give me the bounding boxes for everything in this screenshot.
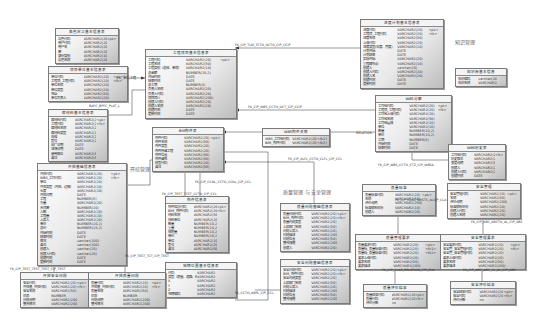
field-type: VARCHAR2(20) bbox=[478, 81, 496, 85]
entity-table[interactable]: WBS历史表工作包代码VARCHAR2(20)<fk>历史版本VARCHAR2(… bbox=[448, 144, 506, 180]
entity-title: 知识库基本信息 bbox=[456, 69, 506, 76]
entity-table[interactable]: 项目单位基本信息表单位代码VARCHAR2(20)<pk>工程项_工程代码VAR… bbox=[48, 66, 128, 102]
entity-table[interactable]: 质量问题基础信息表质量问题代码VARCHAR2(20)<pk>BIM_构件代码V… bbox=[280, 203, 350, 252]
entity-table[interactable]: 开挖基础信息表开挖代码VARCHAR2(20)<pk>WBS_工作代码VARCH… bbox=[37, 163, 127, 266]
entity-title: 质量管理要求 bbox=[356, 235, 440, 242]
field-type: VARCHAR2(20) bbox=[480, 213, 507, 217]
entity-table[interactable]: 质量管理要求质量要求代码VARCHAR2(20)<pk>质量标_质量标准代码VA… bbox=[355, 234, 441, 270]
entity-title: 安全管理要求 bbox=[441, 235, 525, 242]
entity-table[interactable]: WBS构件关联WBS_工作包代码VARCHAR2(20)<fk1>BIM_构件代… bbox=[262, 128, 330, 147]
field-name: 更新时间 bbox=[363, 82, 397, 86]
field-type: VARCHAR2(20) bbox=[292, 141, 317, 145]
entity-title: 安全问题基础信息表 bbox=[281, 260, 349, 267]
relationship-label: FK_CIP_CLAS_SMSTS_ALCIP_CLA bbox=[395, 198, 446, 202]
relationship-label: FK_CIP_CLAS_RELATION_CIP_CLA bbox=[382, 268, 434, 272]
field-type: VARCHAR2 bbox=[197, 292, 223, 296]
field-key bbox=[429, 82, 441, 86]
field-name: 整改措施 bbox=[283, 297, 311, 301]
entity-table[interactable]: WBS分解工作包代码VARCHAR2(20)<pk>工程项_工程代码VARCHA… bbox=[375, 95, 452, 152]
field-key bbox=[415, 301, 424, 305]
field-name: 结束时间 bbox=[378, 146, 409, 150]
field-key bbox=[96, 156, 105, 160]
entity-table[interactable]: 开挖质量问题质量代码VARCHAR2(20)<pk>开挖基_开挖代码VARCHA… bbox=[88, 272, 166, 308]
field-key bbox=[507, 213, 518, 217]
field-name: 评价分数 bbox=[453, 298, 479, 302]
field-key: <fk2> bbox=[317, 141, 327, 145]
field-key bbox=[217, 247, 226, 251]
entity-field-row: 地物编码VARCHAR2 bbox=[168, 292, 234, 296]
entity-field-row: 整改措施VARCHAR2(200) bbox=[283, 297, 347, 301]
field-name: 单位负责人 bbox=[51, 96, 84, 100]
relationship-label: FK_单位_工程 bbox=[117, 75, 136, 80]
field-key bbox=[337, 246, 347, 250]
entity-title: 工程项目基本信息表 bbox=[146, 50, 236, 57]
field-name: 创建人名称 bbox=[450, 213, 480, 217]
field-type: VARCHAR2(50) bbox=[184, 165, 210, 169]
field-type: VARCHAR2(20) bbox=[84, 96, 114, 100]
relationship-label: FK_CCTO_ABPL_CIP_CCL bbox=[235, 291, 274, 295]
field-key bbox=[113, 96, 125, 100]
field-type: int bbox=[479, 298, 503, 302]
field-key bbox=[223, 292, 234, 296]
entity-field-row: BIM_构件代码VARCHAR2(20)<fk2> bbox=[265, 141, 327, 145]
field-type: VARCHAR2(50) bbox=[75, 156, 97, 160]
entity-table[interactable]: 安全问题基础信息表安全问题代码VARCHAR2(20)<pk>BIM_构件代码V… bbox=[280, 259, 350, 304]
field-name: 更新时间 bbox=[148, 112, 186, 116]
field-key bbox=[497, 81, 504, 85]
entity-title: 地物位置基本信息表 bbox=[166, 263, 236, 270]
field-type: VARCHAR2(200) bbox=[51, 302, 77, 306]
entity-field-row: 整改情况VARCHAR2(200) bbox=[23, 302, 87, 306]
field-type: VARCHAR2(200) bbox=[311, 297, 337, 301]
relationship-label: FK_CIP_TEST_TCT_CIP_TEST bbox=[125, 254, 169, 258]
field-type: VARCHAR2(20) bbox=[311, 246, 337, 250]
entity-title: 安全管理 bbox=[448, 184, 520, 191]
section-note: 质量管理 与 安全管理 bbox=[283, 188, 331, 195]
field-name: 地物编码 bbox=[168, 292, 197, 296]
relationship-label: BAFC_BPFC_PLAT_L bbox=[89, 104, 120, 108]
entity-field-row: 更新时间DATE bbox=[148, 112, 234, 116]
field-name: 创建时间 bbox=[451, 174, 474, 178]
entity-field-row: 创建人VARCHAR2(20) bbox=[283, 246, 347, 250]
entity-table[interactable]: 知识库基本信息知识编码varchar(20)知识名称VARCHAR2(20) bbox=[455, 68, 507, 87]
entity-table[interactable]: 安全管理要求安全要求代码VARCHAR2(20)<pk>安全管_安全管理代码VA… bbox=[440, 234, 526, 270]
field-key bbox=[220, 112, 234, 116]
entity-field-row: 备注VARCHAR2(50) bbox=[168, 247, 226, 251]
field-type: VARCHAR2(50) bbox=[194, 247, 217, 251]
field-key bbox=[77, 302, 87, 306]
section-note: 开挖管理 bbox=[130, 165, 150, 172]
entity-table[interactable]: 原材料基本信息表原材料代码VARCHAR2(20)<pk>工程代码VARCHAR… bbox=[48, 109, 108, 162]
relationship-label: FK_CIP_TEST_TEST_TEST_CIP_TEST bbox=[10, 267, 65, 271]
entity-field-row: 备注VARCHAR2(50) bbox=[51, 156, 105, 160]
entity-table[interactable]: 地物位置基本信息表代码VARCHAR2类型（房屋、道路、绿化等）VARCHAR2… bbox=[165, 262, 237, 298]
field-name: 整改情况 bbox=[23, 302, 51, 306]
field-name: 知识名称 bbox=[458, 81, 478, 85]
entity-table[interactable]: 安全评价结果安全结果代码VARCHAR2(20)<pk>安全代码VARCHAR2… bbox=[450, 281, 516, 305]
field-type: int bbox=[392, 301, 415, 305]
entity-title: BIM构件表 bbox=[153, 128, 223, 135]
entity-table[interactable]: 安全管理安全管理代码VARCHAR2(20)<pk>名称VARCHAR2(50)… bbox=[447, 183, 521, 219]
entity-table[interactable]: 开挖安全问题安全代码VARCHAR2(20)<pk>开挖基_开挖代码VARCHA… bbox=[20, 272, 90, 308]
field-key bbox=[210, 165, 221, 169]
entity-title: WBS分解 bbox=[376, 96, 451, 103]
entity-title: WBS历史表 bbox=[449, 145, 505, 152]
entity-field-row: 整改情况VARCHAR2(200) bbox=[91, 302, 163, 306]
relationship-label: FK_CIP_ABC_ABC_CL_AL_CIP_ABC bbox=[463, 268, 516, 272]
entity-table[interactable]: 工程项目基本信息表工程代码VARCHAR2(20)<pk>工程名称VARCHAR… bbox=[145, 49, 237, 119]
entity-table[interactable]: 质量评价结果质量结果代码VARCHAR2(20)<pk>质量代码VARCHAR2… bbox=[363, 284, 427, 308]
entity-table[interactable]: 角色定义基本信息表角色代码VARCHAR2(20)<pk>用户代码VARCHAR… bbox=[55, 28, 119, 64]
entity-table[interactable]: 进度计划基本信息表进度代码VARCHAR2(20)<pk>工程项_工程代码VAR… bbox=[360, 19, 444, 89]
entity-field-row: 备注VARCHAR2(50) bbox=[155, 165, 221, 169]
entity-field-row: 评价分数int bbox=[366, 301, 424, 305]
entity-table[interactable]: BIM构件表构件代码VARCHAR2(20)<pk>构件名称VARCHAR2(5… bbox=[152, 127, 224, 172]
entity-title: 开挖质量问题 bbox=[89, 273, 165, 280]
entity-field-row: 更新时间DATE bbox=[363, 82, 441, 86]
field-type: VARCHAR2(200) bbox=[123, 302, 152, 306]
entity-title: 项目单位基本信息表 bbox=[49, 67, 127, 74]
field-type: VARCHAR2(20) bbox=[395, 210, 422, 214]
field-name: 创建人 bbox=[283, 246, 311, 250]
entity-field-row: 创建人名称VARCHAR2(20) bbox=[450, 213, 518, 217]
entity-table[interactable]: 构件信息表构件信息代码VARCHAR2(20)<pk>BIM_构件代码VARCH… bbox=[165, 196, 229, 253]
entity-field-row: 评价分数int bbox=[453, 298, 513, 302]
field-key bbox=[422, 210, 433, 214]
entity-field-row: 创建人VARCHAR2(20) bbox=[365, 210, 433, 214]
